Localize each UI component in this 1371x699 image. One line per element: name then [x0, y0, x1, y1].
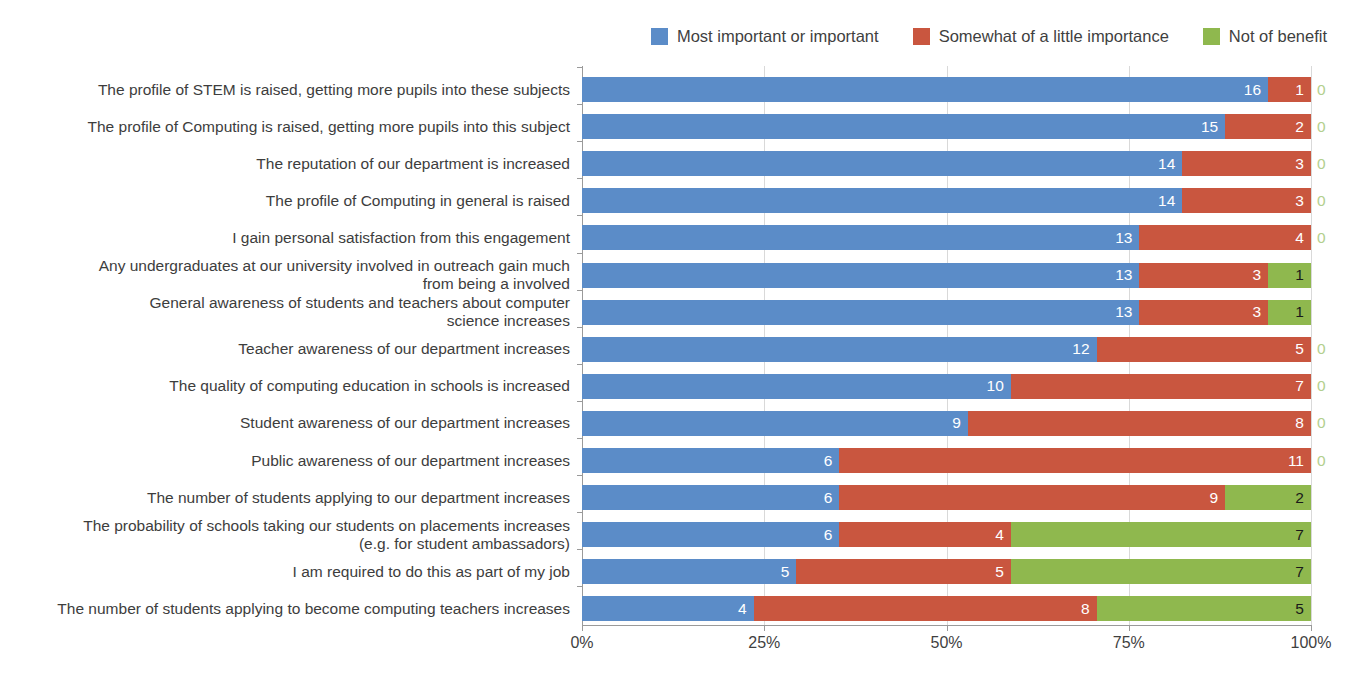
- chart-row[interactable]: I gain personal satisfaction from this e…: [582, 225, 1311, 250]
- bar-segment[interactable]: 5: [582, 559, 796, 584]
- y-axis-tick: [577, 290, 582, 291]
- y-axis-tick: [577, 512, 582, 513]
- y-axis-tick: [577, 401, 582, 402]
- category-label: The quality of computing education in sc…: [0, 377, 570, 395]
- bar-segment[interactable]: 1: [1268, 77, 1311, 102]
- bar-segment[interactable]: 13: [582, 263, 1139, 288]
- bar-segment[interactable]: 10: [582, 374, 1011, 399]
- bar-segment[interactable]: 5: [1097, 596, 1311, 621]
- zero-value-label: 0: [1317, 114, 1326, 139]
- zero-value-label: 0: [1317, 411, 1326, 436]
- zero-value-label: 0: [1317, 225, 1326, 250]
- x-axis-tick: [764, 625, 765, 631]
- bar-segment[interactable]: 2: [1225, 485, 1311, 510]
- bar-segment[interactable]: 4: [1139, 225, 1311, 250]
- legend-swatch-not-of-benefit: [1203, 28, 1220, 45]
- bar-segment[interactable]: 7: [1011, 522, 1311, 547]
- category-label: I gain personal satisfaction from this e…: [0, 229, 570, 247]
- gridline: [1311, 66, 1312, 625]
- chart-row[interactable]: The probability of schools taking our st…: [582, 522, 1311, 547]
- chart-row[interactable]: The number of students applying to our d…: [582, 485, 1311, 510]
- category-label: Any undergraduates at our university inv…: [0, 257, 570, 293]
- y-axis-tick: [577, 253, 582, 254]
- legend-item[interactable]: Not of benefit: [1203, 28, 1327, 45]
- chart-row[interactable]: The reputation of our department is incr…: [582, 151, 1311, 176]
- y-axis-tick: [577, 178, 582, 179]
- category-label: The profile of STEM is raised, getting m…: [0, 81, 570, 99]
- category-label: Student awareness of our department incr…: [0, 414, 570, 432]
- zero-value-label: 0: [1317, 151, 1326, 176]
- bar-segment[interactable]: 6: [582, 522, 839, 547]
- chart-legend: Most important or importantSomewhat of a…: [0, 28, 1371, 45]
- stacked-bar-chart: The profile of STEM is raised, getting m…: [0, 66, 1371, 636]
- bar-segment[interactable]: 7: [1011, 559, 1311, 584]
- legend-label: Most important or important: [677, 28, 879, 45]
- y-axis-tick: [577, 586, 582, 587]
- bar-segment[interactable]: 9: [839, 485, 1225, 510]
- chart-row[interactable]: General awareness of students and teache…: [582, 300, 1311, 325]
- x-axis: 0%25%50%75%100%: [582, 625, 1311, 665]
- zero-value-label: 0: [1317, 77, 1326, 102]
- bar-segment[interactable]: 12: [582, 337, 1097, 362]
- y-axis-tick: [577, 67, 582, 68]
- x-axis-tick: [1311, 625, 1312, 631]
- x-axis-tick-label: 25%: [748, 634, 780, 652]
- bar-segment[interactable]: 9: [582, 411, 968, 436]
- zero-value-label: 0: [1317, 374, 1326, 399]
- bar-segment[interactable]: 3: [1182, 151, 1311, 176]
- x-axis-tick-label: 75%: [1113, 634, 1145, 652]
- bar-segment[interactable]: 11: [839, 448, 1311, 473]
- bar-segment[interactable]: 4: [839, 522, 1011, 547]
- y-axis-tick: [577, 438, 582, 439]
- bar-segment[interactable]: 1: [1268, 300, 1311, 325]
- chart-row[interactable]: The quality of computing education in sc…: [582, 374, 1311, 399]
- y-axis-tick: [577, 549, 582, 550]
- category-label: The number of students applying to our d…: [0, 489, 570, 507]
- chart-row[interactable]: I am required to do this as part of my j…: [582, 559, 1311, 584]
- bar-segment[interactable]: 1: [1268, 263, 1311, 288]
- bar-segment[interactable]: 13: [582, 300, 1139, 325]
- x-axis-tick: [582, 625, 583, 631]
- bar-segment[interactable]: 14: [582, 188, 1182, 213]
- chart-row[interactable]: Any undergraduates at our university inv…: [582, 263, 1311, 288]
- category-label: Public awareness of our department incre…: [0, 452, 570, 470]
- chart-row[interactable]: Student awareness of our department incr…: [582, 411, 1311, 436]
- legend-swatch-most-important: [651, 28, 668, 45]
- chart-row[interactable]: The profile of STEM is raised, getting m…: [582, 77, 1311, 102]
- chart-row[interactable]: Teacher awareness of our department incr…: [582, 337, 1311, 362]
- bar-segment[interactable]: 3: [1182, 188, 1311, 213]
- category-label: The profile of Computing is raised, gett…: [0, 118, 570, 136]
- bar-segment[interactable]: 3: [1139, 300, 1268, 325]
- x-axis-tick: [1129, 625, 1130, 631]
- bar-segment[interactable]: 8: [968, 411, 1311, 436]
- category-label: I am required to do this as part of my j…: [0, 563, 570, 581]
- y-axis-tick: [577, 364, 582, 365]
- y-axis-tick: [577, 215, 582, 216]
- bar-segment[interactable]: 6: [582, 448, 839, 473]
- category-label: The reputation of our department is incr…: [0, 155, 570, 173]
- bar-segment[interactable]: 14: [582, 151, 1182, 176]
- bar-segment[interactable]: 4: [582, 596, 754, 621]
- bar-segment[interactable]: 6: [582, 485, 839, 510]
- x-axis-tick-label: 0%: [570, 634, 593, 652]
- bar-segment[interactable]: 15: [582, 114, 1225, 139]
- chart-row[interactable]: The profile of Computing in general is r…: [582, 188, 1311, 213]
- bar-segment[interactable]: 3: [1139, 263, 1268, 288]
- category-label: General awareness of students and teache…: [0, 294, 570, 330]
- bar-segment[interactable]: 8: [754, 596, 1097, 621]
- legend-label: Not of benefit: [1229, 28, 1327, 45]
- chart-row[interactable]: The profile of Computing is raised, gett…: [582, 114, 1311, 139]
- bar-segment[interactable]: 5: [796, 559, 1010, 584]
- legend-item[interactable]: Somewhat of a little importance: [913, 28, 1169, 45]
- chart-row[interactable]: Public awareness of our department incre…: [582, 448, 1311, 473]
- bar-segment[interactable]: 2: [1225, 114, 1311, 139]
- bar-segment[interactable]: 13: [582, 225, 1139, 250]
- chart-row[interactable]: The number of students applying to becom…: [582, 596, 1311, 621]
- bar-segment[interactable]: 5: [1097, 337, 1311, 362]
- y-axis-tick: [577, 475, 582, 476]
- bar-segment[interactable]: 7: [1011, 374, 1311, 399]
- bar-segment[interactable]: 16: [582, 77, 1268, 102]
- legend-item[interactable]: Most important or important: [651, 28, 879, 45]
- zero-value-label: 0: [1317, 337, 1326, 362]
- category-label: The profile of Computing in general is r…: [0, 192, 570, 210]
